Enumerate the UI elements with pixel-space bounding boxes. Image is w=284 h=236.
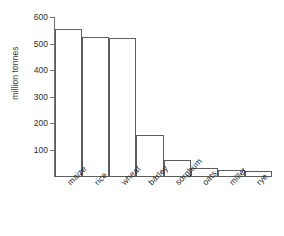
bar-series <box>55 17 272 177</box>
bar <box>55 29 82 177</box>
y-axis-tick <box>50 17 54 18</box>
bar <box>109 38 136 177</box>
y-axis-tick <box>50 70 54 71</box>
y-axis-tick-label: 300 <box>18 92 48 102</box>
y-axis-tick-label: 400 <box>18 65 48 75</box>
y-axis-tick <box>50 44 54 45</box>
y-axis-tick-label: 200 <box>18 118 48 128</box>
y-axis-tick-label: 600 <box>18 12 48 22</box>
y-axis-tick-label: 500 <box>18 39 48 49</box>
bar <box>82 37 109 177</box>
bar-chart: million tonnes 100200300400500600 maizer… <box>0 0 284 236</box>
y-axis-tick-label: 100 <box>18 145 48 155</box>
y-axis-tick <box>50 97 54 98</box>
y-axis-tick <box>50 150 54 151</box>
y-axis-tick <box>50 123 54 124</box>
